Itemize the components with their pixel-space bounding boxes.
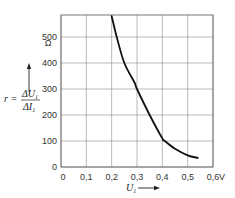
x-tick-label: 0 [60,172,65,182]
y-label-den-sub: 1 [32,107,35,113]
y-tick-label: 200 [42,110,57,120]
x-unit-label: V [219,172,225,182]
y-label-denominator: ΔI1 [22,101,35,113]
y-tick-label: 300 [42,84,57,94]
x-tick-label: 0,5 [181,172,194,182]
x-tick-label: 0,6 [207,172,220,182]
x-label-text: U1 [126,182,136,194]
y-unit-label: Ω [45,38,52,48]
resistance-voltage-chart: 0100200300400500 00,10,20,30,40,50,6 Ω V… [0,0,235,198]
y-tick-label: 100 [42,136,57,146]
x-tick-label: 0,3 [131,172,144,182]
y-label-lhs: r = [4,93,17,104]
x-axis-label: U1 [126,182,160,194]
y-tick-label: 400 [42,58,57,68]
x-tick-label: 0,4 [156,172,169,182]
y-tick-label: 0 [52,162,57,172]
right-arrow-head-icon [154,186,160,190]
up-arrow-head-icon [27,63,31,69]
data-curve [112,16,198,158]
y-label-numerator: ΔU1 [21,88,38,100]
x-tick-labels: 00,10,20,30,40,50,6 [60,172,219,182]
x-tick-label: 0,1 [80,172,93,182]
y-axis-label: r = ΔU1 ΔI1 [4,63,40,113]
y-label-num-sub: 1 [35,94,38,100]
y-tick-labels: 0100200300400500 [42,32,57,172]
y-label-num-text: ΔU [21,88,36,99]
x-label-sub: 1 [133,188,136,194]
x-tick-label: 0,2 [105,172,118,182]
